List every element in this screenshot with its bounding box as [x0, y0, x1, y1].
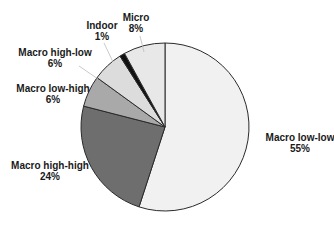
- label-macro-low-high: Macro low-high 6%: [16, 83, 89, 105]
- label-indoor: Indoor 1%: [86, 20, 117, 42]
- label-macro-high-low: Macro high-low 6%: [18, 47, 91, 69]
- label-macro-high-high: Macro high-high 24%: [11, 160, 89, 182]
- leader-line: [104, 43, 113, 62]
- label-macro-low-low: Macro low-low 55%: [266, 132, 334, 154]
- label-micro: Micro 8%: [123, 12, 150, 34]
